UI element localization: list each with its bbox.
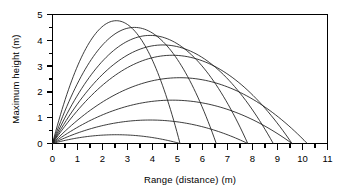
x-tick-label: 2 (100, 153, 105, 164)
x-tick-label: 10 (297, 153, 308, 164)
trajectory-curve (53, 27, 217, 143)
trajectory-curve (53, 120, 248, 143)
y-tick-label: 1 (37, 112, 42, 123)
trajectory-curve (53, 35, 248, 143)
y-tick-label: 4 (37, 35, 42, 46)
x-tick-label: 7 (225, 153, 230, 164)
x-tick-labels: 01234567891011 (50, 153, 333, 164)
y-tick-label: 3 (37, 61, 42, 72)
x-tick-label: 5 (175, 153, 180, 164)
x-tick-label: 9 (275, 153, 280, 164)
y-tick-label: 2 (37, 86, 42, 97)
x-tick-label: 0 (50, 153, 55, 164)
chart-canvas: 01234567891011 012345 Range (distance) (… (0, 0, 343, 195)
trajectory-curve (53, 55, 293, 143)
trajectory-curve (53, 100, 293, 143)
x-tick-label: 1 (75, 153, 80, 164)
x-tick-label: 3 (125, 153, 130, 164)
y-tick-labels: 012345 (37, 9, 42, 149)
x-tick-label: 8 (250, 153, 255, 164)
x-tick-label: 11 (323, 153, 333, 164)
trajectory-curve (53, 45, 274, 144)
x-tick-label: 6 (200, 153, 205, 164)
y-tick-label: 5 (37, 9, 42, 20)
y-axis-title-text: Maximum height (m) (10, 34, 21, 123)
x-tick-label: 4 (150, 153, 155, 164)
projectile-trajectory-figure: 01234567891011 012345 Range (distance) (… (0, 0, 343, 195)
trajectory-curve (53, 135, 181, 144)
trajectory-curves (53, 21, 308, 144)
x-axis-title-text: Range (distance) (m) (144, 174, 236, 185)
y-tick-label: 0 (37, 138, 42, 149)
